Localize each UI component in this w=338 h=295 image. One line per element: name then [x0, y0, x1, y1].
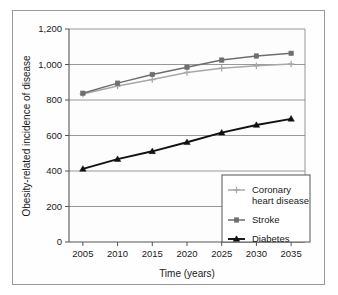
y-tick-label: 600: [46, 130, 62, 141]
x-tick-label: 2020: [176, 248, 197, 259]
marker-square-icon: [150, 72, 154, 76]
y-tick-label: 200: [46, 201, 62, 212]
y-tick-label: 0: [57, 236, 62, 247]
y-axis-tick-labels: 02004006008001,0001,200: [38, 23, 62, 247]
y-tick-label: 1,000: [38, 59, 62, 70]
chart-legend[interactable]: Coronaryheart diseaseStrokeDiabetes: [222, 175, 310, 244]
y-axis-tick-marks: [65, 29, 69, 242]
marker-square-icon: [81, 91, 85, 95]
x-tick-label: 2030: [246, 248, 267, 259]
legend-label: Diabetes: [252, 233, 290, 244]
legend-label-line2: heart disease: [252, 195, 309, 206]
y-axis-title: Obesity-related incidence of disease: [21, 55, 32, 217]
y-tick-label: 1,200: [38, 23, 62, 34]
legend-label: Stroke: [252, 214, 279, 225]
marker-square-icon: [220, 58, 224, 62]
marker-square-icon: [115, 81, 119, 85]
marker-square-icon: [289, 51, 293, 55]
line-chart: 02004006008001,0001,200 2005201020152020…: [0, 0, 338, 295]
chart-figure: 02004006008001,0001,200 2005201020152020…: [0, 0, 338, 295]
x-tick-label: 2035: [281, 248, 302, 259]
x-axis-tick-labels: 2005201020152020202520302035: [72, 248, 301, 259]
x-tick-label: 2010: [107, 248, 128, 259]
marker-square-icon: [254, 54, 258, 58]
x-tick-label: 2005: [72, 248, 93, 259]
marker-square-icon: [234, 218, 238, 222]
x-axis-title: Time (years): [159, 268, 215, 279]
x-tick-label: 2015: [142, 248, 163, 259]
y-tick-label: 800: [46, 94, 62, 105]
x-tick-label: 2025: [211, 248, 232, 259]
y-tick-label: 400: [46, 165, 62, 176]
legend-label: Coronary: [252, 184, 291, 195]
marker-square-icon: [185, 65, 189, 69]
